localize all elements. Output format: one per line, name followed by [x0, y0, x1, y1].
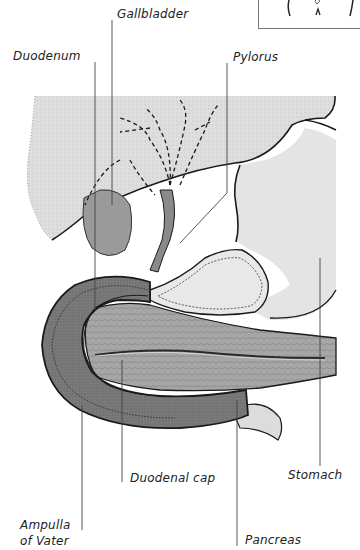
- gallbladder: [83, 190, 132, 256]
- label-stomach: Stomach: [288, 469, 342, 482]
- label-ampulla-of-vater-line2: of Vater: [20, 535, 69, 548]
- label-gallbladder: Gallbladder: [117, 8, 188, 21]
- label-pylorus: Pylorus: [233, 51, 278, 64]
- label-duodenum: Duodenum: [13, 50, 81, 63]
- label-duodenal-cap: Duodenal cap: [130, 472, 215, 485]
- label-pancreas: Pancreas: [245, 534, 301, 547]
- label-ampulla-of-vater-line1: Ampulla: [20, 519, 71, 532]
- common-bile-duct: [150, 190, 175, 272]
- stomach-antrum: [150, 250, 268, 315]
